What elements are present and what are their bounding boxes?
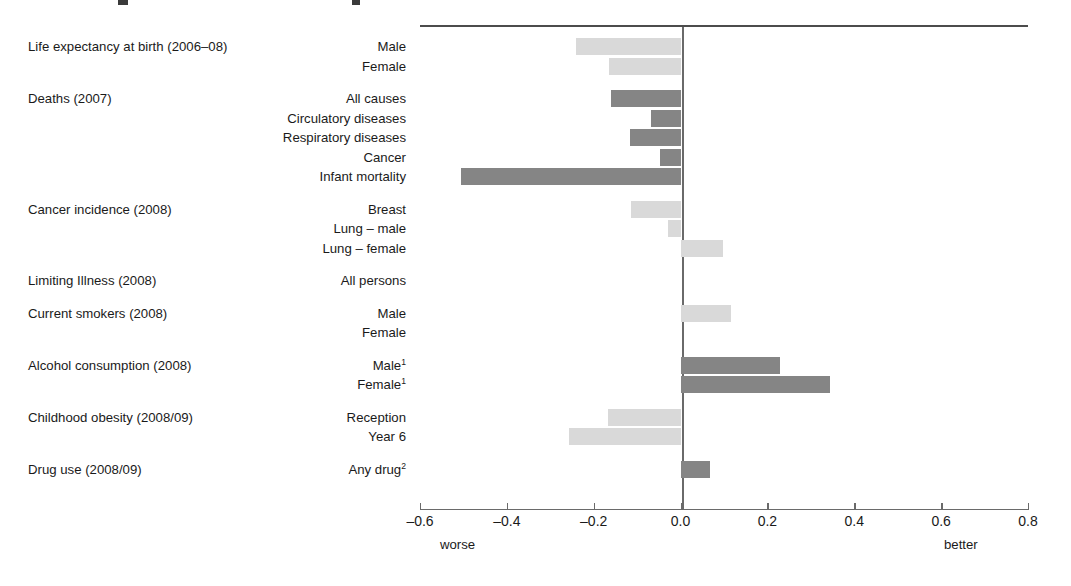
axis-end-label-worse: worse [440,537,475,552]
category-label: Breast [368,203,406,217]
group-label: Childhood obesity (2008/09) [28,411,193,425]
category-label: Lung – female [322,242,406,256]
bar [630,129,681,146]
x-tick-label: 0.8 [998,513,1058,529]
bar [461,168,680,185]
category-label: Lung – male [333,222,406,236]
group-label: Deaths (2007) [28,92,112,106]
bar [681,305,731,322]
x-tick-label: 0.6 [911,513,971,529]
group-label: Limiting Illness (2008) [28,274,156,288]
group-label: Alcohol consumption (2008) [28,359,191,373]
x-tick [854,503,855,510]
category-label: Infant mortality [320,170,407,184]
top-rule [420,25,1028,27]
category-label: Cancer [363,151,406,165]
category-label: Male1 [373,359,406,373]
x-tick [941,503,942,510]
bar [576,38,680,55]
bar [668,220,680,237]
x-tick-label: –0.2 [564,513,624,529]
x-tick-label: 0.2 [737,513,797,529]
category-label: Male [377,307,406,321]
x-tick-label: 0.0 [651,513,711,529]
category-label: Female1 [357,378,406,392]
bar [681,240,724,257]
category-label: Reception [347,411,406,425]
category-label: Circulatory diseases [287,112,406,126]
category-label: Male [377,40,406,54]
group-label: Drug use (2008/09) [28,463,142,477]
category-label: Any drug2 [348,463,406,477]
bar [660,149,680,166]
bar [569,428,680,445]
x-tick [420,503,421,510]
bar [631,201,680,218]
bar [608,409,681,426]
bar [651,110,681,127]
group-label: Current smokers (2008) [28,307,167,321]
x-tick-label: –0.6 [390,513,450,529]
bar [609,58,681,75]
x-tick [1028,503,1029,510]
bar [611,90,680,107]
category-label: Female [362,60,406,74]
bar [681,357,781,374]
x-tick [767,503,768,510]
comparison-bar-chart: Life expectancy at birth (2006–08)MaleFe… [0,0,1071,586]
x-tick [507,503,508,510]
group-label: Life expectancy at birth (2006–08) [28,40,227,54]
x-tick-label: 0.4 [824,513,884,529]
x-tick [681,503,682,510]
group-label: Cancer incidence (2008) [28,203,172,217]
x-axis-line [420,509,1028,510]
label-column: Life expectancy at birth (2006–08)MaleFe… [0,0,420,586]
category-label: Year 6 [368,430,406,444]
plot-area: –0.6–0.4–0.20.00.20.40.60.8 worse better [420,0,1071,586]
category-label: Respiratory diseases [283,131,406,145]
x-tick-label: –0.4 [477,513,537,529]
category-label: Female [362,326,406,340]
x-tick [594,503,595,510]
category-label: All causes [346,92,406,106]
axis-end-label-better: better [944,537,978,552]
bar [681,376,831,393]
zero-reference-line [682,27,684,510]
category-label: All persons [341,274,406,288]
bar [681,461,711,478]
